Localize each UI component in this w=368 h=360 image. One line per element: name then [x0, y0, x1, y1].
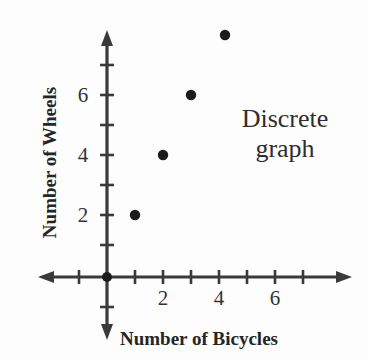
data-point — [186, 90, 196, 100]
x-tick-label: 2 — [148, 288, 178, 309]
y-tick-label: 2 — [72, 205, 94, 226]
origin-point — [102, 272, 112, 282]
x-axis-arrow-left — [38, 271, 54, 283]
data-point — [130, 210, 140, 220]
data-point — [158, 150, 168, 160]
discrete-graph-figure: 2 4 6 6 4 2 Number of Bicycles Number of… — [0, 0, 368, 360]
y-tick-label: 4 — [72, 145, 94, 166]
annotation-line-2: graph — [215, 134, 355, 164]
y-tick-label: 6 — [72, 85, 94, 106]
y-axis-label: Number of Wheels — [40, 75, 59, 250]
x-tick-label: 6 — [260, 288, 290, 309]
y-axis-arrow-up — [101, 30, 113, 46]
data-point — [220, 30, 230, 40]
graph-type-annotation: Discrete graph — [215, 104, 355, 164]
annotation-line-1: Discrete — [215, 104, 355, 134]
x-axis-arrow-right — [336, 271, 352, 283]
y-axis-arrow-down — [101, 324, 113, 340]
x-axis-label: Number of Bicycles — [120, 329, 278, 348]
x-tick-label: 4 — [204, 288, 234, 309]
